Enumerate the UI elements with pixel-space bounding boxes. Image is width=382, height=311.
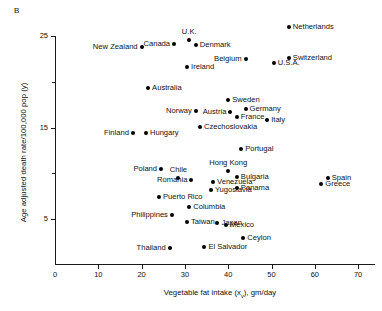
y-tick-mark (51, 128, 55, 129)
x-axis-title: Vegetable fat intake (xv), gm/day (100, 288, 340, 299)
y-tick-mark-minor (52, 173, 55, 174)
data-point (187, 38, 191, 42)
x-tick-mark (315, 265, 316, 269)
y-tick-label: 25 (26, 31, 48, 40)
data-point (187, 205, 191, 209)
data-point (209, 188, 213, 192)
data-point (168, 246, 172, 250)
data-point (272, 61, 276, 65)
x-tick-label: 20 (130, 270, 154, 279)
x-tick-mark (98, 265, 99, 269)
x-tick-mark (142, 265, 143, 269)
data-point (226, 98, 230, 102)
data-point-label: Sweden (232, 96, 259, 104)
data-point-label: U.K. (182, 28, 197, 36)
data-point-label: Czechoslovakia (204, 123, 257, 131)
data-point (244, 107, 248, 111)
data-point (215, 221, 219, 225)
data-point (185, 65, 189, 69)
data-point-label: Finland (104, 129, 129, 137)
y-tick-mark-minor (52, 82, 55, 83)
data-point-label: Italy (271, 116, 285, 124)
data-point (194, 43, 198, 47)
y-tick-mark (51, 36, 55, 37)
data-point (226, 169, 230, 173)
data-point (144, 131, 148, 135)
data-point (287, 25, 291, 29)
y-tick-mark (51, 219, 55, 220)
x-axis-line (55, 264, 375, 265)
data-point-label: Greece (325, 180, 350, 188)
x-tick-label: 30 (173, 270, 197, 279)
data-point (241, 236, 245, 240)
x-tick-mark (228, 265, 229, 269)
data-point (170, 213, 174, 217)
x-tick-label: 60 (303, 270, 327, 279)
data-point-label: France (241, 114, 265, 122)
data-point-label: Columbia (193, 203, 225, 211)
data-point-label: Ceylon (247, 234, 271, 242)
data-point (235, 186, 239, 190)
data-point (189, 178, 193, 182)
data-point-label: Austria (203, 108, 227, 116)
data-point (194, 109, 198, 113)
x-tick-mark (358, 265, 359, 269)
data-point-label: Romania (157, 176, 187, 184)
data-point (146, 86, 150, 90)
data-point (235, 115, 239, 119)
data-point (198, 125, 202, 129)
y-axis-title: Age adjusted death rate/100,000 pop (y) (19, 53, 28, 253)
x-tick-label: 10 (86, 270, 110, 279)
data-point (265, 118, 269, 122)
data-point-label: Norway (166, 107, 192, 115)
data-point-label: Thailand (137, 244, 166, 252)
data-point-label: El Salvador (208, 244, 247, 252)
data-point (140, 45, 144, 49)
data-point-label: Ireland (191, 63, 214, 71)
data-point-label: Poland (133, 165, 157, 173)
data-point (157, 195, 161, 199)
data-point-label: Netherlands (293, 23, 334, 31)
data-point (131, 131, 135, 135)
data-point-label: Philippines (131, 212, 168, 220)
data-point (319, 182, 323, 186)
data-point-label: U.S.A. (278, 59, 300, 67)
data-point-label: Taiwan (191, 218, 215, 226)
data-point-label: Canada (143, 40, 170, 48)
x-tick-label: 40 (216, 270, 240, 279)
data-point-label: Panama (241, 184, 269, 192)
data-point-label: New Zealand (93, 43, 138, 51)
data-point (172, 42, 176, 46)
y-tick-label: 15 (26, 123, 48, 132)
data-point (244, 57, 248, 61)
x-tick-label: 0 (43, 270, 67, 279)
data-point-label: Chile (170, 166, 187, 174)
x-tick-mark (185, 265, 186, 269)
data-point-label: Australia (152, 84, 182, 92)
x-tick-label: 70 (346, 270, 370, 279)
data-point-label: Denmark (200, 41, 231, 49)
data-point-label: Puerto Rico (163, 193, 203, 201)
data-point-label: Hong Kong (209, 160, 247, 168)
data-point-label: Mexico (230, 222, 254, 230)
data-point (202, 245, 206, 249)
data-point (159, 167, 163, 171)
data-point-label: Hungary (150, 129, 179, 137)
data-point (239, 147, 243, 151)
scatter-plot-figure: B 51525 010203040506070 NetherlandsU.K.C… (0, 0, 382, 311)
plot-area: 51525 010203040506070 NetherlandsU.K.Can… (0, 0, 382, 311)
x-tick-mark (272, 265, 273, 269)
data-point (211, 180, 215, 184)
data-point (228, 110, 232, 114)
y-tick-label: 5 (26, 214, 48, 223)
data-point-label: Portugal (245, 146, 273, 154)
x-tick-label: 50 (260, 270, 284, 279)
y-axis-line (55, 36, 56, 264)
data-point (185, 220, 189, 224)
data-point-label: Belgium (214, 55, 241, 63)
